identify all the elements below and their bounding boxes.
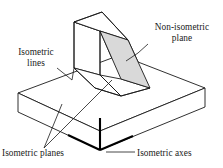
label-isometric-lines: Isometric lines bbox=[6, 47, 66, 68]
label-isometric-lines-line1: Isometric bbox=[18, 47, 54, 57]
label-isometric-planes: Isometric planes bbox=[2, 148, 64, 159]
label-isometric-lines-line2: lines bbox=[27, 58, 45, 68]
label-isometric-axes: Isometric axes bbox=[137, 148, 192, 159]
label-non-isometric-plane-line1: Non-isometric bbox=[155, 22, 209, 32]
label-non-isometric-plane-line2: plane bbox=[172, 33, 192, 43]
label-non-isometric-plane: Non-isometric plane bbox=[143, 22, 221, 43]
